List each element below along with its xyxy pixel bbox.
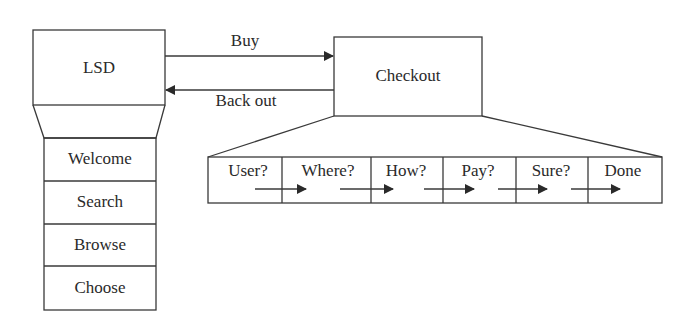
lsd-expansion-connector xyxy=(33,105,165,138)
menu-item-choose: Choose xyxy=(44,278,156,298)
buy-label: Buy xyxy=(200,31,290,51)
back-out-label: Back out xyxy=(196,91,296,111)
step-sure: Sure? xyxy=(517,161,585,181)
step-done: Done xyxy=(589,161,657,181)
step-user: User? xyxy=(214,161,282,181)
step-how: How? xyxy=(373,161,439,181)
checkout-label: Checkout xyxy=(334,66,482,86)
lsd-label: LSD xyxy=(33,58,165,78)
menu-item-search: Search xyxy=(44,192,156,212)
step-pay: Pay? xyxy=(445,161,511,181)
step-where: Where? xyxy=(285,161,371,181)
menu-item-browse: Browse xyxy=(44,235,156,255)
menu-item-welcome: Welcome xyxy=(44,149,156,169)
checkout-expansion-connector xyxy=(208,116,662,157)
